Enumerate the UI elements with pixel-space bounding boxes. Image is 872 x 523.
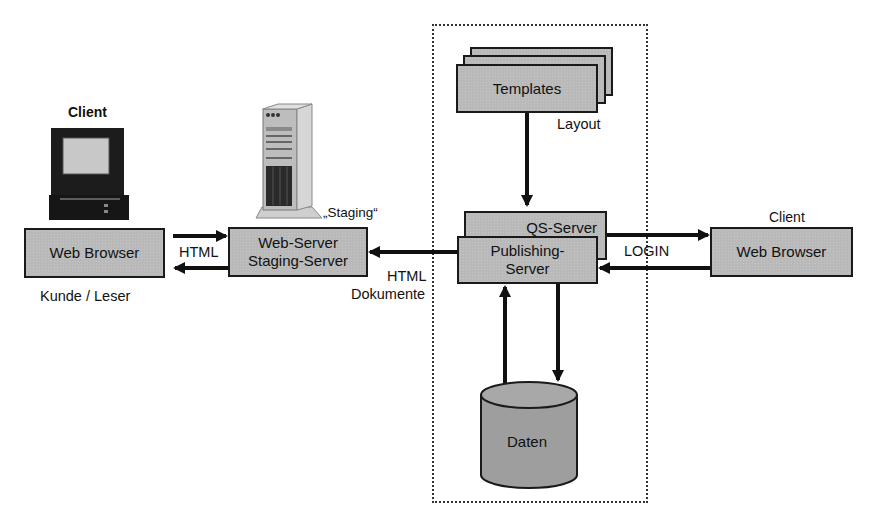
tower-server-icon	[256, 104, 322, 218]
database-label: Daten	[507, 433, 547, 450]
right-web-browser-label: Web Browser	[737, 243, 827, 261]
html-documents-label-line1: HTML	[387, 268, 426, 285]
staging-server-label-line2: Staging-Server	[248, 252, 348, 270]
layout-label: Layout	[557, 116, 601, 133]
left-web-browser-box[interactable]: Web Browser	[24, 228, 165, 278]
publishing-server-label-line1: Publishing-	[490, 242, 564, 260]
kunde-leser-label: Kunde / Leser	[40, 288, 130, 305]
html-edge-label: HTML	[179, 244, 218, 261]
html-documents-label-line2: Dokumente	[351, 286, 425, 303]
right-web-browser-box[interactable]: Web Browser	[710, 227, 853, 277]
qs-server-label: QS-Server	[526, 219, 597, 237]
staging-caption: „Staging“	[323, 204, 378, 221]
publishing-server-label-line2: Server	[505, 260, 549, 278]
right-client-caption: Client	[769, 209, 805, 226]
templates-box[interactable]: Templates	[456, 64, 598, 113]
templates-label: Templates	[493, 80, 561, 98]
publishing-server-box[interactable]: Publishing- Server	[457, 236, 598, 284]
left-web-browser-label: Web Browser	[50, 244, 140, 262]
login-edge-label: LOGIN	[624, 243, 669, 260]
left-client-caption: Client	[68, 104, 107, 121]
desktop-computer-icon	[49, 128, 129, 220]
staging-server-label-line1: Web-Server	[258, 234, 338, 252]
staging-server-box[interactable]: Web-Server Staging-Server	[228, 227, 368, 277]
